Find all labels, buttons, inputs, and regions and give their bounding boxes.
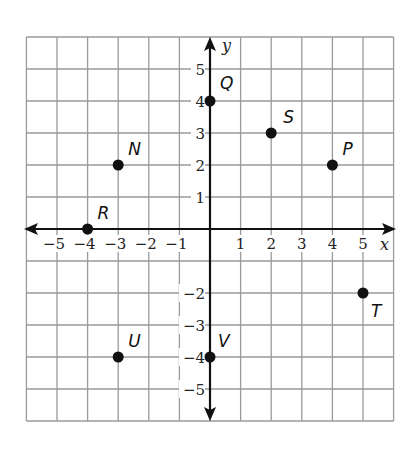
y-tick-label: 1 xyxy=(195,189,205,207)
point-dot-icon xyxy=(113,352,124,363)
point-dot-icon xyxy=(266,128,277,139)
x-tick-label: −3 xyxy=(104,235,126,253)
x-tick-label: 1 xyxy=(236,235,246,253)
y-tick-label: −3 xyxy=(183,317,205,335)
point-label: P xyxy=(342,139,353,159)
x-tick-label: 4 xyxy=(328,235,338,253)
point-label: U xyxy=(128,331,141,351)
y-axis-name: y xyxy=(221,36,232,55)
point-dot-icon xyxy=(113,160,124,171)
point-label: Q xyxy=(220,73,233,93)
point-s: S xyxy=(266,107,295,139)
point-label: N xyxy=(128,139,141,159)
coordinate-plane: x y −5−4−3−2−112345−5−4−3−212345 QSPNRTU… xyxy=(0,0,410,453)
plotted-points: QSPNRTUV xyxy=(82,73,383,363)
point-label: S xyxy=(283,107,294,127)
point-label: T xyxy=(371,301,383,321)
point-label: R xyxy=(98,203,110,223)
y-tick-label: −5 xyxy=(183,381,205,399)
axes: x y xyxy=(24,36,396,421)
x-tick-label: 5 xyxy=(358,235,368,253)
point-v: V xyxy=(205,331,232,363)
point-label: V xyxy=(218,331,231,351)
x-tick-label: −2 xyxy=(135,235,157,253)
point-p: P xyxy=(327,139,354,171)
point-n: N xyxy=(113,139,142,171)
y-tick-label: 5 xyxy=(195,61,205,79)
y-tick-label: 3 xyxy=(195,125,205,143)
point-u: U xyxy=(113,331,142,363)
point-dot-icon xyxy=(205,96,216,107)
x-tick-label: −4 xyxy=(74,235,96,253)
y-tick-label: 2 xyxy=(195,157,205,175)
point-dot-icon xyxy=(358,288,369,299)
y-tick-label: 4 xyxy=(195,93,205,111)
x-tick-label: −1 xyxy=(165,235,187,253)
x-tick-label: −5 xyxy=(43,235,65,253)
point-dot-icon xyxy=(205,352,216,363)
x-tick-label: 3 xyxy=(297,235,307,253)
point-dot-icon xyxy=(82,224,93,235)
x-tick-label: 2 xyxy=(266,235,276,253)
x-axis-name: x xyxy=(380,235,389,254)
y-tick-label: −2 xyxy=(183,285,205,303)
point-dot-icon xyxy=(327,160,338,171)
y-tick-label: −4 xyxy=(183,349,205,367)
